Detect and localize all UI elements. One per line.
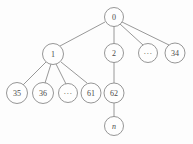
tree-edge-n1-to-n36 <box>45 64 51 83</box>
tree-edge-n1-to-n61 <box>61 62 87 83</box>
tree-edge-n1-to-n35 <box>23 62 46 85</box>
tree-node-ndots2: ··· <box>59 84 78 103</box>
tree-node-root: 0 <box>105 8 124 27</box>
tree-node-n34: 34 <box>165 43 185 63</box>
node-label-ndots2: ··· <box>63 89 72 98</box>
node-label-n2: 2 <box>112 49 116 58</box>
node-label-n61: 61 <box>87 89 95 98</box>
tree-canvas: 012···343536···6162n <box>0 0 193 144</box>
tree-node-n35: 35 <box>7 83 28 104</box>
node-label-nn: n <box>112 122 116 131</box>
tree-diagram-figure: 012···343536···6162n <box>0 0 193 144</box>
node-label-ndots1: ··· <box>143 49 152 58</box>
tree-edge-root-to-n34 <box>122 22 169 45</box>
tree-node-n36: 36 <box>33 83 54 104</box>
tree-edge-root-to-ndots1 <box>120 24 143 45</box>
node-label-n1: 1 <box>51 50 55 59</box>
tree-node-n1: 1 <box>43 44 64 65</box>
node-label-n62: 62 <box>110 89 118 98</box>
node-label-root: 0 <box>112 13 116 22</box>
node-label-n36: 36 <box>39 89 47 98</box>
tree-edge-n1-to-ndots2 <box>56 64 66 84</box>
node-label-n34: 34 <box>171 49 179 58</box>
node-label-n35: 35 <box>13 89 21 98</box>
tree-node-n62: 62 <box>104 83 124 103</box>
tree-node-ndots1: ··· <box>139 44 158 63</box>
tree-edge-root-to-n1 <box>60 22 105 46</box>
tree-node-n2: 2 <box>105 44 124 63</box>
tree-node-nn: n <box>105 117 124 136</box>
tree-node-n61: 61 <box>81 83 101 103</box>
